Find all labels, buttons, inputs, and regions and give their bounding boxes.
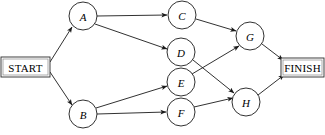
terminal-finish[interactable]: FINISH	[281, 58, 324, 77]
terminals-layer: STARTFINISH	[1, 57, 324, 77]
terminal-start[interactable]: START	[1, 57, 50, 77]
node-a[interactable]: A	[69, 2, 97, 30]
edge-start-to-a	[50, 27, 72, 62]
node-h[interactable]: H	[232, 88, 260, 116]
node-label-c: C	[178, 10, 186, 22]
edge-b-to-e	[96, 86, 167, 108]
node-f[interactable]: F	[167, 98, 195, 126]
terminal-label-finish: FINISH	[284, 62, 321, 74]
edge-start-to-b	[50, 72, 72, 105]
edge-c-to-g	[196, 19, 236, 31]
node-label-g: G	[246, 31, 254, 43]
node-g[interactable]: G	[236, 22, 264, 50]
network-diagram-canvas: STARTFINISH ABCDEFGH	[0, 0, 325, 135]
edge-b-to-f	[97, 112, 166, 114]
edge-g-to-finish	[262, 44, 283, 60]
node-label-a: A	[79, 11, 87, 23]
edge-d-to-h	[193, 60, 234, 93]
terminal-label-start: START	[8, 62, 42, 74]
node-label-d: D	[176, 47, 185, 59]
graph-svg: STARTFINISH ABCDEFGH	[0, 0, 325, 135]
node-e[interactable]: E	[167, 68, 195, 96]
node-b[interactable]: B	[69, 100, 97, 128]
edge-a-to-c	[97, 15, 167, 16]
node-c[interactable]: C	[168, 1, 196, 29]
nodes-layer: ABCDEFGH	[69, 1, 264, 128]
node-label-h: H	[241, 97, 251, 109]
edge-h-to-finish	[258, 75, 284, 95]
edge-e-to-g	[192, 46, 239, 74]
node-label-f: F	[177, 107, 185, 119]
node-d[interactable]: D	[167, 38, 195, 66]
edge-a-to-d	[95, 24, 167, 49]
edge-f-to-h	[194, 98, 233, 107]
node-label-e: E	[177, 77, 185, 89]
node-label-b: B	[80, 109, 87, 121]
